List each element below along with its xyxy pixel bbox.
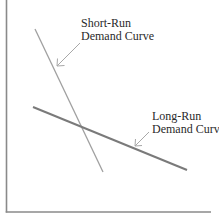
long-run-label-line2: Demand Curve xyxy=(152,122,219,136)
short-run-label-line2: Demand Curve xyxy=(81,29,154,43)
short-run-demand-curve xyxy=(35,29,103,172)
long-run-label-line1: Long-Run xyxy=(152,109,201,123)
short-run-label-line1: Short-Run xyxy=(81,16,131,30)
long-run-arrow-icon xyxy=(135,132,149,146)
short-run-arrow-icon xyxy=(57,43,80,66)
demand-curve-diagram: Short-Run Demand Curve Long-Run Demand C… xyxy=(0,0,219,216)
